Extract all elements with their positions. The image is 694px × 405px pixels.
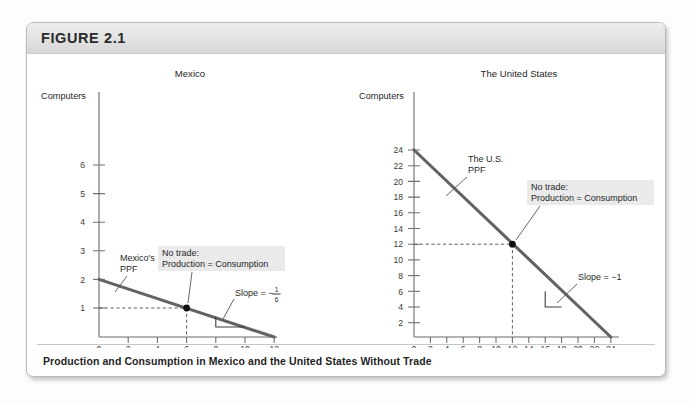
figure-number-label: FIGURE 2.1: [41, 30, 126, 46]
chart-mexico-title: Mexico: [175, 68, 205, 79]
chart-us-ytick-12: 12: [393, 239, 403, 249]
chart-us-ytick-22: 22: [393, 161, 403, 171]
chart-mexico-slope-label: Slope = −: [235, 288, 274, 298]
chart-mexico-ytick-2: 2: [80, 275, 85, 285]
chart-us-ytick-2: 2: [398, 318, 403, 328]
chart-mexico-ytick-3: 3: [80, 246, 85, 256]
chart-mexico-callout-leader: [188, 272, 192, 303]
chart-us-ytick-6: 6: [398, 287, 403, 297]
chart-mexico-ytick-1: 1: [80, 303, 85, 313]
page: FIGURE 2.1 Mexico Computers 1 2: [0, 0, 694, 405]
charts-area: Mexico Computers 1 2 3 4: [27, 54, 665, 348]
chart-mexico-slope-leader: [223, 299, 234, 319]
chart-us-ytick-20: 20: [393, 177, 403, 187]
chart-mexico-ytick-5: 5: [80, 189, 85, 199]
chart-us-ytick-18: 18: [393, 192, 403, 202]
chart-us-ylabel: Computers: [359, 91, 404, 101]
chart-mexico-ppf-label-line1: Mexico's: [120, 253, 155, 263]
chart-mexico: Mexico Computers 1 2 3 4: [41, 68, 285, 348]
chart-united-states: The United States Computers 2 4 6 8: [359, 68, 654, 348]
chart-us-slope-label: Slope = −1: [578, 272, 622, 282]
chart-us-x-ticks: 0 2 4 6 8 10 12 14: [412, 337, 616, 348]
chart-us-title: The United States: [481, 68, 558, 79]
chart-mexico-ylabel: Computers: [41, 91, 86, 101]
chart-us-ytick-14: 14: [393, 224, 403, 234]
chart-us-ppf-leader: [446, 177, 467, 196]
chart-us-callout-leader: [516, 206, 540, 240]
chart-us-ytick-24: 24: [393, 145, 403, 155]
chart-us-y-ticks: 2 4 6 8 10 12 14 16: [393, 145, 420, 328]
chart-us-ytick-10: 10: [393, 255, 403, 265]
figure-container: FIGURE 2.1 Mexico Computers 1 2: [26, 22, 666, 377]
chart-mexico-callout-line2: Production = Consumption: [162, 259, 268, 269]
chart-mexico-slope-numerator: 1: [275, 286, 279, 293]
chart-mexico-x-ticks: 0 2 4 6 8 10 12: [97, 337, 280, 348]
chart-mexico-callout-line1: No trade:: [162, 248, 199, 258]
caption-divider: [37, 344, 655, 345]
charts-svg: Mexico Computers 1 2 3 4: [27, 54, 665, 348]
chart-mexico-y-ticks: 1 2 3 4 5 6: [80, 160, 105, 313]
chart-us-callout-line1: No trade:: [531, 182, 568, 192]
chart-us-slope-triangle: [545, 291, 561, 307]
chart-us-callout-line2: Production = Consumption: [531, 193, 637, 203]
chart-us-ppf-label-line2: PPF: [468, 165, 486, 175]
chart-us-ytick-4: 4: [398, 302, 403, 312]
chart-us-no-trade-point: [509, 241, 516, 248]
chart-mexico-no-trade-point: [183, 305, 190, 312]
chart-mexico-ytick-6: 6: [80, 160, 85, 170]
chart-mexico-ytick-4: 4: [80, 217, 85, 227]
chart-mexico-slope-denominator: 6: [275, 296, 279, 303]
chart-mexico-ppf-label-line2: PPF: [120, 264, 138, 274]
chart-us-ytick-8: 8: [398, 271, 403, 281]
chart-us-ppf-label-line1: The U.S.: [468, 154, 504, 164]
figure-header-bar: FIGURE 2.1: [27, 23, 665, 54]
figure-caption: Production and Consumption in Mexico and…: [43, 355, 432, 367]
chart-us-ytick-16: 16: [393, 208, 403, 218]
